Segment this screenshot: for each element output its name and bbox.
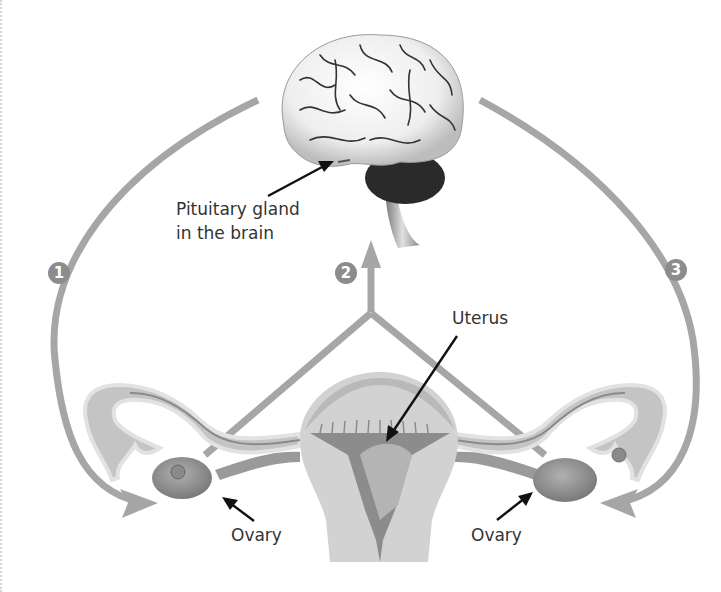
left-ovary-pointer-arrow — [222, 497, 254, 521]
reproductive-hormone-diagram — [0, 0, 721, 592]
step-3-badge: 3 — [665, 259, 687, 281]
arrow-1-pituitary-to-left-ovary — [54, 100, 258, 518]
right-ovary-label: Ovary — [471, 524, 522, 546]
step-2-badge: 2 — [335, 262, 357, 284]
brain-illustration — [282, 35, 463, 248]
uterus-label: Uterus — [452, 307, 508, 329]
right-ovary-pointer-arrow — [497, 492, 533, 520]
right-ovary — [533, 458, 597, 502]
arrow-3-pituitary-to-right-ovary — [480, 100, 696, 518]
uterus-illustration — [300, 372, 458, 562]
pituitary-pointer-arrow — [268, 161, 334, 196]
left-ovary-label: Ovary — [231, 524, 282, 546]
step-1-badge: 1 — [48, 262, 70, 284]
pituitary-gland-label-line2: in the brain — [176, 222, 274, 244]
pituitary-gland-label-line1: Pituitary gland — [176, 198, 300, 220]
left-ovary — [152, 457, 212, 499]
